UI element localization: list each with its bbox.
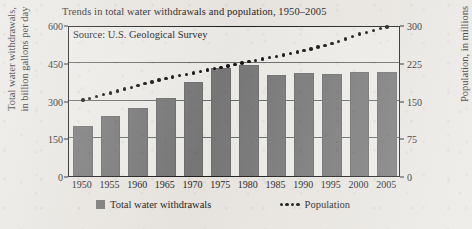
population-dot — [289, 52, 292, 55]
y-axis-left-tick-600: 600 — [48, 21, 63, 32]
population-dot — [302, 49, 305, 52]
legend-swatch-icon — [96, 200, 105, 209]
x-axis-tick-2005: 2005 — [376, 179, 396, 190]
x-axis-tick-1960: 1960 — [127, 179, 147, 190]
population-dot — [275, 55, 278, 58]
plot-area: Source: U.S. Geological Survey — [68, 26, 400, 177]
x-axis-tick-1955: 1955 — [100, 179, 120, 190]
chart-title: Trends in total water withdrawals and po… — [62, 6, 392, 18]
x-axis-tick-1990: 1990 — [293, 179, 313, 190]
population-dot — [199, 70, 202, 73]
population-dot — [109, 91, 112, 94]
population-dot — [282, 53, 285, 56]
population-dot — [206, 68, 209, 71]
x-axis-tick-1975: 1975 — [210, 179, 230, 190]
y-axis-left-tickmark — [64, 63, 68, 64]
population-dot — [372, 29, 375, 32]
legend-label-population: Population — [305, 199, 351, 210]
population-dot — [261, 57, 264, 60]
population-dot — [351, 35, 354, 38]
population-dot — [164, 77, 167, 80]
bar-1995 — [322, 74, 341, 176]
population-dot — [219, 66, 222, 69]
bar-1960 — [128, 108, 147, 176]
x-axis-tick-1970: 1970 — [183, 179, 203, 190]
population-dot — [330, 42, 333, 45]
y-axis-right-tickmark — [400, 139, 404, 140]
bar-1950 — [73, 126, 92, 176]
y-axis-left-title-line2: in billion gallons per day — [18, 0, 31, 139]
y-axis-right-tick-300: 300 — [407, 21, 422, 32]
population-dot — [365, 31, 368, 34]
population-dot — [379, 27, 382, 30]
y-axis-left-tickmark — [64, 101, 68, 102]
bar-1955 — [101, 116, 120, 176]
y-axis-left-tick-300: 300 — [48, 96, 63, 107]
population-dot — [337, 40, 340, 43]
x-axis-tick-1995: 1995 — [321, 179, 341, 190]
population-dot — [185, 73, 188, 76]
population-dot — [123, 87, 126, 90]
population-dot — [268, 56, 271, 59]
population-dot — [95, 95, 98, 98]
population-dot — [226, 64, 229, 67]
y-axis-right-tick-225: 225 — [407, 58, 422, 69]
y-axis-left-title-line1: Total water withdrawals, — [5, 0, 18, 139]
y-axis-left-tickmark — [64, 139, 68, 140]
population-dot — [150, 80, 153, 83]
chart-figure: Trends in total water withdrawals and po… — [0, 0, 472, 229]
x-axis-tick-1950: 1950 — [72, 179, 92, 190]
population-dot — [385, 25, 388, 28]
population-dot — [323, 44, 326, 47]
legend-dotted-line-icon — [280, 203, 300, 206]
population-dot — [171, 75, 174, 78]
y-axis-right-tickmark — [400, 63, 404, 64]
population-dot — [344, 37, 347, 40]
bar-1965 — [156, 98, 175, 176]
x-axis-tick-1980: 1980 — [238, 179, 258, 190]
bar-2005 — [377, 72, 396, 176]
y-axis-left-tick-150: 150 — [48, 134, 63, 145]
population-dot — [157, 78, 160, 81]
bar-1980 — [239, 65, 258, 176]
x-axis-tick-1965: 1965 — [155, 179, 175, 190]
population-dot — [116, 89, 119, 92]
population-dot — [178, 74, 181, 77]
bar-1970 — [184, 82, 203, 176]
population-dot — [316, 45, 319, 48]
chart-legend: Total water withdrawals Population — [68, 199, 408, 215]
y-axis-right-tickmark — [400, 26, 404, 27]
x-axis: 1950195519601965197019751980198519901995… — [68, 178, 400, 194]
x-axis-tick-1985: 1985 — [266, 179, 286, 190]
y-axis-left-tick-0: 0 — [58, 172, 63, 183]
population-dot — [309, 47, 312, 50]
population-dot — [296, 50, 299, 53]
y-axis-right-tick-0: 0 — [407, 172, 412, 183]
population-dot — [130, 86, 133, 89]
y-axis-right-tickmark — [400, 101, 404, 102]
y-axis-left-tick-450: 450 — [48, 58, 63, 69]
population-dot — [81, 98, 84, 101]
y-axis-right-tick-75: 75 — [407, 134, 417, 145]
population-dot — [143, 82, 146, 85]
population-dot — [240, 61, 243, 64]
y-axis-right-tick-150: 150 — [407, 96, 422, 107]
population-dot — [136, 84, 139, 87]
y-axis-left-title: Total water withdrawals, in billion gall… — [5, 0, 31, 139]
legend-item-population: Population — [280, 199, 350, 210]
y-axis-right-title: Population, in millions — [459, 0, 471, 129]
bar-1990 — [294, 73, 313, 176]
population-dot — [358, 32, 361, 35]
y-axis-left-tickmark — [64, 26, 68, 27]
bar-1975 — [211, 68, 230, 176]
bar-1985 — [267, 75, 286, 176]
legend-item-total-water-withdrawals: Total water withdrawals — [96, 199, 211, 210]
population-dot — [233, 63, 236, 66]
y-axis-right: 075150225300 — [400, 26, 460, 177]
legend-label-total-water-withdrawals: Total water withdrawals — [110, 199, 211, 210]
bar-2000 — [350, 72, 369, 176]
population-dot — [102, 93, 105, 96]
source-note: Source: U.S. Geological Survey — [73, 29, 207, 41]
population-dot — [247, 60, 250, 63]
y-axis-right-tickmark — [400, 177, 404, 178]
